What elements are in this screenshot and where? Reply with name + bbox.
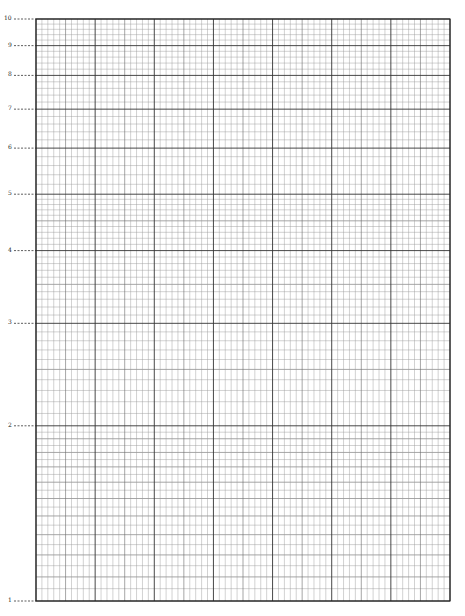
y-label-7: 7 <box>8 105 12 111</box>
y-label-4: 4 <box>8 247 12 253</box>
y-label-1: 1 <box>8 597 12 603</box>
y-label-8: 8 <box>8 71 12 77</box>
y-label-6: 6 <box>8 144 12 150</box>
y-label-2: 2 <box>8 422 12 428</box>
y-label-3: 3 <box>8 319 12 325</box>
y-label-5: 5 <box>8 190 12 196</box>
semi-log-graph-paper <box>0 0 465 616</box>
y-label-10: 10 <box>4 15 12 21</box>
y-label-9: 9 <box>8 42 12 48</box>
